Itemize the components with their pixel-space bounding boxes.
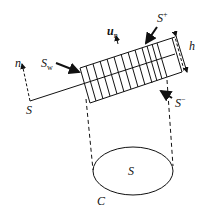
side-surface-label: Sw	[41, 57, 53, 72]
velocity-normal-label: un	[107, 25, 118, 40]
diagram-canvas: n S Sw un S+ h S− S C	[0, 0, 204, 213]
surface-label-left: S	[26, 104, 32, 116]
normal-label: n	[15, 57, 21, 69]
curve-label: C	[97, 195, 105, 207]
thickness-label: h	[189, 40, 195, 52]
area-label: S	[128, 165, 134, 177]
lower-surface-label: S−	[175, 96, 186, 109]
upper-surface-label: S+	[157, 11, 168, 24]
